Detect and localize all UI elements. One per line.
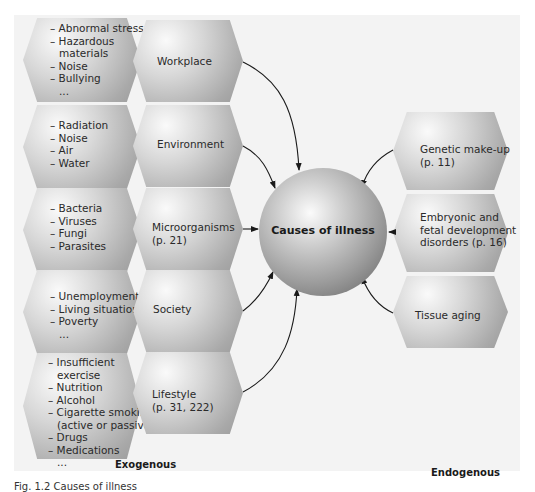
center-label: Causes of illness [259,224,387,237]
arrow-workplace [243,62,299,170]
arrow-tissue-aging [362,277,393,313]
figure-caption: Fig. 1.2 Causes of illness [14,481,137,492]
arrow-society [243,272,273,311]
arrow-genetic [362,150,393,187]
exogenous-label: Exogenous [115,459,176,470]
arrow-environment [243,146,275,188]
endogenous-label: Endogenous [431,467,500,478]
